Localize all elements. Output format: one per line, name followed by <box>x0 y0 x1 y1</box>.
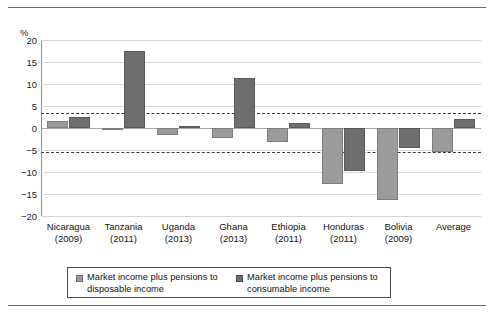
legend-swatch-icon-dark <box>236 275 243 282</box>
gridline-10 <box>41 84 481 85</box>
reference-line-2 <box>41 152 481 153</box>
x-label-name: Uganda <box>151 221 206 233</box>
x-label-ghana: Ghana(2013) <box>206 221 261 245</box>
x-label-year: (2011) <box>316 233 371 245</box>
plot-area <box>41 40 481 216</box>
top-divider <box>8 7 486 8</box>
gridline-5 <box>41 106 481 107</box>
x-axis-category-labels: Nicaragua(2009)Tanzania(2011)Uganda(2013… <box>41 221 481 255</box>
bar-disposable-2 <box>157 128 178 135</box>
x-label-name: Tanzania <box>96 221 151 233</box>
y-tick--20: −20 <box>9 211 37 222</box>
x-label-year: (2011) <box>261 233 316 245</box>
reference-line-1 <box>41 113 481 114</box>
x-label-year: (2011) <box>96 233 151 245</box>
bar-disposable-6 <box>377 128 398 200</box>
x-label-honduras: Honduras(2011) <box>316 221 371 245</box>
x-label-bolivia: Bolivia(2009) <box>371 221 426 245</box>
x-label-name: Honduras <box>316 221 371 233</box>
bar-disposable-4 <box>267 128 288 142</box>
bar-disposable-7 <box>432 128 453 152</box>
y-axis-tick-labels: 20151050−5−10−15−20 <box>5 40 37 216</box>
chart-legend: Market income plus pensions to disposabl… <box>67 267 391 298</box>
x-label-name: Bolivia <box>371 221 426 233</box>
bar-disposable-0 <box>47 121 68 128</box>
x-label-name: Ghana <box>206 221 261 233</box>
y-tick-20: 20 <box>9 35 37 46</box>
legend-item-disposable: Market income plus pensions to disposabl… <box>76 272 228 295</box>
bar-disposable-5 <box>322 128 343 184</box>
gridline-20 <box>41 40 481 41</box>
y-tick-10: 10 <box>9 79 37 90</box>
gridline--20 <box>41 216 481 217</box>
bar-consumable-5 <box>344 128 365 171</box>
bar-consumable-4 <box>289 123 310 128</box>
legend-swatch-icon-light <box>76 275 83 282</box>
y-tick-15: 15 <box>9 57 37 68</box>
x-label-nicaragua: Nicaragua(2009) <box>41 221 96 245</box>
x-label-name: Nicaragua <box>41 221 96 233</box>
y-tick-5: 5 <box>9 101 37 112</box>
chart-figure: % 20151050−5−10−15−20 Nicaragua(2009)Tan… <box>0 0 494 313</box>
gridline--10 <box>41 172 481 173</box>
y-tick-0: 0 <box>9 123 37 134</box>
legend-label-line2: disposable income <box>87 284 228 296</box>
bar-disposable-3 <box>212 128 233 138</box>
x-label-year: (2009) <box>371 233 426 245</box>
legend-label-line1: Market income plus pensions to <box>87 272 228 284</box>
bar-consumable-7 <box>454 119 475 128</box>
x-label-year: (2013) <box>206 233 261 245</box>
legend-label-line2: consumable income <box>247 284 388 296</box>
bar-consumable-0 <box>69 117 90 128</box>
gridline--15 <box>41 194 481 195</box>
x-label-year: (2013) <box>151 233 206 245</box>
bar-consumable-6 <box>399 128 420 148</box>
gridline--5 <box>41 150 481 151</box>
legend-item-consumable: Market income plus pensions to consumabl… <box>236 272 388 295</box>
x-label-year: (2009) <box>41 233 96 245</box>
x-label-name: Ethiopia <box>261 221 316 233</box>
x-label-name: Average <box>426 221 481 233</box>
x-label-tanzania: Tanzania(2011) <box>96 221 151 245</box>
legend-label-line1: Market income plus pensions to <box>247 272 388 284</box>
y-tick--5: −5 <box>9 145 37 156</box>
bar-consumable-2 <box>179 126 200 128</box>
bar-disposable-1 <box>102 128 123 130</box>
x-label-average: Average <box>426 221 481 233</box>
y-tick--10: −10 <box>9 167 37 178</box>
x-label-ethiopia: Ethiopia(2011) <box>261 221 316 245</box>
bottom-divider <box>8 305 486 306</box>
bar-consumable-1 <box>124 51 145 128</box>
bar-consumable-3 <box>234 78 255 128</box>
y-tick--15: −15 <box>9 189 37 200</box>
x-label-uganda: Uganda(2013) <box>151 221 206 245</box>
gridline-15 <box>41 62 481 63</box>
